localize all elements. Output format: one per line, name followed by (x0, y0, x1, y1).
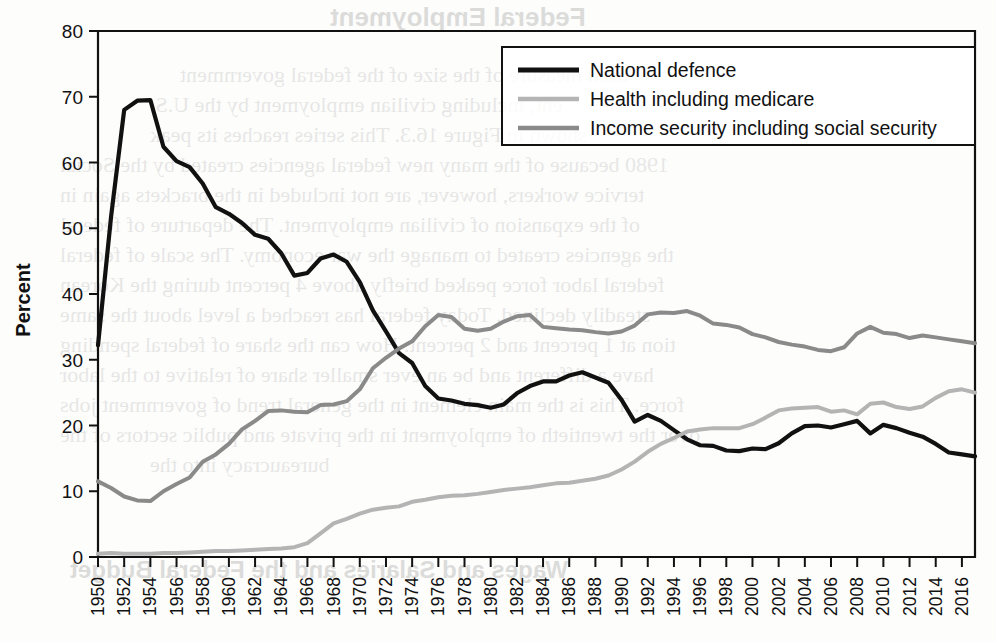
x-tick-label: 2006 (821, 577, 841, 616)
x-tick-label: 2000 (742, 577, 762, 616)
x-tick-label: 1996 (690, 577, 710, 616)
y-tick-label: 30 (62, 350, 83, 371)
x-tick-label: 1956 (167, 577, 187, 616)
y-tick-label: 70 (62, 87, 83, 108)
series-line-0 (98, 100, 975, 456)
x-tick-label: 1998 (716, 577, 736, 616)
x-tick-label: 1964 (271, 577, 291, 616)
y-tick-labels: 01020304050607080 (62, 21, 83, 568)
x-tick-label: 1986 (559, 577, 579, 616)
x-tick-label: 1962 (245, 577, 265, 616)
x-tick-label: 1978 (455, 577, 475, 616)
y-axis-title: Percent (12, 263, 34, 337)
y-tick-label: 60 (62, 153, 83, 174)
x-tick-label: 1976 (428, 577, 448, 616)
chart-legend: National defenceHealth including medicar… (502, 47, 975, 145)
x-tick-label: 1984 (533, 577, 553, 616)
x-tick-label: 2008 (847, 577, 867, 616)
x-tick-label: 1994 (664, 577, 684, 616)
x-tick-label: 1958 (193, 577, 213, 616)
y-tick-label: 0 (72, 547, 83, 568)
x-tick-label: 2012 (900, 577, 920, 616)
x-tick-label: 1972 (376, 577, 396, 616)
x-tick-label: 2004 (795, 577, 815, 616)
line-chart: 1950195219541956195819601962196419661968… (0, 0, 996, 642)
legend-label-1: Health including medicare (590, 88, 814, 110)
x-tick-label: 2016 (952, 577, 972, 616)
x-tick-label: 2014 (926, 577, 946, 616)
y-tick-label: 20 (62, 416, 83, 437)
series-line-2 (98, 311, 975, 501)
chart-series (98, 100, 975, 554)
y-tick-label: 10 (62, 481, 83, 502)
legend-label-0: National defence (590, 59, 736, 81)
x-tick-label: 1970 (350, 577, 370, 616)
x-tick-label: 1966 (297, 577, 317, 616)
series-line-1 (98, 389, 975, 553)
x-tick-label: 1960 (219, 577, 239, 616)
x-tick-label: 1974 (402, 577, 422, 616)
y-tick-label: 40 (62, 284, 83, 305)
x-tick-label: 1992 (638, 577, 658, 616)
x-tick-label: 1954 (140, 577, 160, 616)
x-tick-label: 1980 (481, 577, 501, 616)
x-tick-label: 1982 (507, 577, 527, 616)
x-tick-label: 1988 (585, 577, 605, 616)
x-tick-label: 2010 (873, 577, 893, 616)
x-tick-labels: 1950195219541956195819601962196419661968… (88, 577, 972, 616)
legend-label-2: Income security including social securit… (590, 117, 937, 139)
x-tick-label: 1952 (114, 577, 134, 616)
x-tick-label: 1950 (88, 577, 108, 616)
chart-page: Federal EmploymentWages and Salaries and… (0, 0, 996, 642)
x-tick-label: 2002 (769, 577, 789, 616)
y-tick-label: 80 (62, 21, 83, 42)
x-tick-label: 1968 (324, 577, 344, 616)
x-tick-label: 1990 (612, 577, 632, 616)
y-tick-label: 50 (62, 218, 83, 239)
